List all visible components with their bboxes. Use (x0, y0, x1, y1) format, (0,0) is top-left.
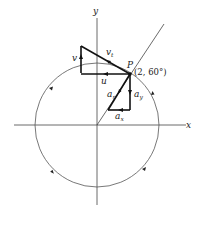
x-axis-label: x (186, 120, 191, 130)
arrow-a-y-icon (128, 90, 132, 95)
point-p (128, 72, 132, 76)
polar-motion-diagram: y x P (2, 60°) vt v u ar ay ax (0, 0, 202, 225)
path-direction-arrow-icon (49, 87, 53, 91)
path-direction-arrow-icon (151, 91, 155, 95)
path-direction-arrow-icon (50, 170, 55, 175)
label-v: v (72, 53, 77, 63)
y-axis-label: y (92, 6, 99, 16)
label-p-coords: (2, 60°) (134, 67, 167, 77)
path-direction-arrow-icon (142, 167, 146, 171)
label-p: P (126, 60, 134, 70)
label-u: u (101, 76, 107, 86)
label-v-t: vt (106, 47, 114, 58)
label-a-y: ay (134, 89, 143, 101)
label-a-r: ar (107, 89, 116, 100)
arrow-v-icon (79, 54, 83, 59)
label-a-x: ax (115, 111, 124, 122)
